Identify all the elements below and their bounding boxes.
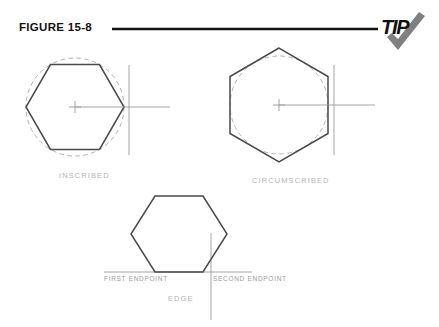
diagram-circumscribed: [230, 48, 375, 162]
hexagon-edge: [131, 196, 227, 272]
diagram-inscribed: [26, 58, 170, 156]
label-first-endpoint: FIRST ENDPOINT: [104, 275, 168, 282]
label-second-endpoint: SECOND ENDPOINT: [213, 275, 287, 282]
caption-circumscribed: CIRCUMSCRIBED: [252, 176, 330, 185]
caption-edge: EDGE: [168, 294, 194, 303]
caption-inscribed: INSCRIBED: [59, 171, 110, 180]
figure-page: FIGURE 15-8 TIP: [0, 0, 439, 327]
